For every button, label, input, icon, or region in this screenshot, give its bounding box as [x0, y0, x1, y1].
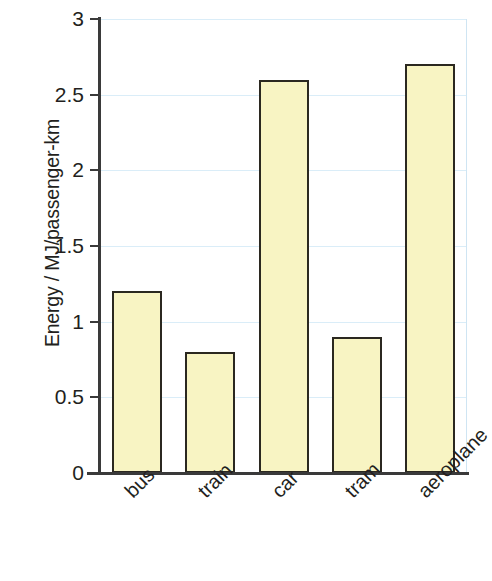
y-axis-tick — [90, 245, 99, 247]
y-axis-tick — [90, 18, 99, 20]
y-axis-tick-label: 2.5 — [24, 84, 84, 105]
gridline — [100, 19, 467, 20]
y-axis-tick — [90, 396, 99, 398]
y-axis-tick — [90, 169, 99, 171]
y-axis-tick-label: 3 — [24, 8, 84, 29]
bar — [332, 337, 382, 473]
y-axis-tick — [90, 94, 99, 96]
y-axis-tick-label: 0 — [24, 462, 84, 483]
plot-area — [100, 19, 467, 473]
y-axis-tick-label: 2 — [24, 159, 84, 180]
bar — [405, 64, 455, 473]
y-axis-tick — [90, 472, 99, 474]
bar — [112, 291, 162, 473]
plot-right-border — [466, 19, 467, 473]
y-axis-tick-label: 1.5 — [24, 235, 84, 256]
y-axis-title: Energy / MJ/passenger-km — [41, 83, 64, 383]
y-axis-tick — [90, 321, 99, 323]
bar — [259, 80, 309, 473]
y-axis-tick-label: 1 — [24, 311, 84, 332]
bar — [185, 352, 235, 473]
y-axis-tick-label: 0.5 — [24, 386, 84, 407]
